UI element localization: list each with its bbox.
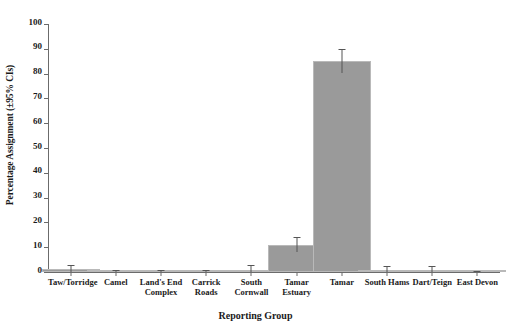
y-tick-label: 10: [33, 241, 42, 250]
y-tick-label: 70: [33, 92, 42, 101]
error-bar-cap: [67, 265, 74, 266]
x-axis-label: Dart/Teign: [410, 277, 455, 287]
x-axis-label-line: Cornwall: [229, 287, 274, 297]
x-axis-label: East Devon: [455, 277, 500, 287]
x-axis-label: Land's EndComplex: [138, 277, 183, 297]
x-axis-label: Camel: [93, 277, 138, 287]
bar-group: [455, 24, 500, 272]
x-tick-mark: [160, 272, 161, 276]
bar-group: [319, 24, 364, 272]
x-axis-label-line: Dart/Teign: [410, 277, 455, 287]
x-tick-mark: [477, 272, 478, 276]
bar-group: [93, 24, 138, 272]
y-axis-title: Percentage Assignment (±95% CIs): [0, 0, 20, 270]
x-axis-label-line: Estuary: [274, 287, 319, 297]
x-axis-label-line: Tamar: [319, 277, 364, 287]
bar-group: [184, 24, 229, 272]
y-tick-label: 50: [33, 142, 42, 151]
error-bar-cap: [338, 49, 345, 50]
bar-group: [410, 24, 455, 272]
x-axis-label-line: Complex: [138, 287, 183, 297]
bar-group: [364, 24, 409, 272]
error-bar-cap: [248, 265, 255, 266]
y-tick-label: 90: [33, 42, 42, 51]
x-tick-mark: [70, 272, 71, 276]
x-axis-label-line: South Hams: [364, 277, 409, 287]
x-axis-label-line: South: [229, 277, 274, 287]
x-tick-mark: [386, 272, 387, 276]
error-bar-cap: [429, 266, 436, 267]
x-axis-label: South Hams: [364, 277, 409, 287]
x-axis-label: Tamar: [319, 277, 364, 287]
x-axis-label-line: Tamar: [274, 277, 319, 287]
x-axis-label: Carrick Roads: [184, 277, 229, 297]
y-tick-label: 60: [33, 117, 42, 126]
bar-chart: Percentage Assignment (±95% CIs) 0102030…: [0, 0, 511, 331]
x-tick-mark: [341, 272, 342, 276]
y-tick-label: 80: [33, 67, 42, 76]
x-axis-label-line: Land's End: [138, 277, 183, 287]
x-tick-mark: [296, 272, 297, 276]
plot-area: [48, 24, 500, 272]
y-tick-label: 40: [33, 166, 42, 175]
bars-layer: [48, 24, 500, 272]
x-axis-label: TamarEstuary: [274, 277, 319, 297]
y-tick-label: 100: [29, 18, 43, 27]
y-axis-title-text: Percentage Assignment (±95% CIs): [5, 65, 15, 205]
x-tick-mark: [206, 272, 207, 276]
bar: [313, 61, 371, 272]
bar-group: [48, 24, 93, 272]
x-axis-label: Taw/Torridge: [48, 277, 93, 287]
x-tick-mark: [115, 272, 116, 276]
y-axis: 0102030405060708090100: [20, 18, 48, 280]
x-axis-label-line: Taw/Torridge: [48, 277, 93, 287]
y-tick-label: 20: [33, 216, 42, 225]
y-tick-label: 30: [33, 191, 42, 200]
x-axis-label-line: East Devon: [455, 277, 500, 287]
error-bar-cap: [293, 237, 300, 238]
error-bar: [341, 50, 342, 73]
x-axis-label-line: Carrick Roads: [184, 277, 229, 297]
x-tick-mark: [251, 272, 252, 276]
error-bar-cap: [383, 266, 390, 267]
x-tick-mark: [432, 272, 433, 276]
x-axis-title: Reporting Group: [0, 310, 511, 321]
x-axis-label: SouthCornwall: [229, 277, 274, 297]
error-bar: [296, 238, 297, 252]
bar-group: [138, 24, 183, 272]
x-axis-label-line: Camel: [93, 277, 138, 287]
bar-group: [229, 24, 274, 272]
x-axis-labels: Taw/TorridgeCamelLand's EndComplexCarric…: [48, 277, 500, 307]
